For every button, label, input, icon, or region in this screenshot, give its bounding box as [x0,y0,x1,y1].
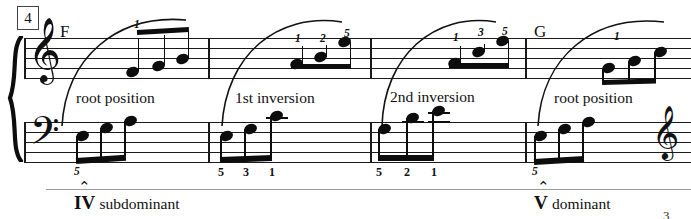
bass-fingering-2-2: 3 [243,165,249,180]
treble-fingering-2-3: 5 [344,27,350,39]
treble-stem-2-1 [302,46,304,64]
bass-beam-4 [534,156,584,165]
bass-fingering-2-1: 5 [218,165,224,180]
brace-icon [4,36,24,162]
treble-fingering-3-3: 5 [502,25,508,37]
treble-fingering-2-2: 2 [320,32,326,44]
bass-stem-4-1 [534,136,536,161]
bass-fingering-3-2: 2 [404,165,410,180]
inversion-label-1: root position [76,89,155,107]
bass-stem-1-2 [100,128,102,159]
system-left-edge-treble [24,38,26,79]
bass-stem-2-2 [244,129,246,159]
barline-1-bass [208,122,210,163]
bass-fingering-3-3: 1 [431,165,437,180]
barline-2-bass [370,122,372,163]
music-score-sheet: 4 𝄞 𝄢 𝄞 F [0,0,691,219]
barline-3-bass [525,122,527,163]
bass-beam-3 [378,155,434,161]
bass-fingering-2-3: 1 [269,165,275,180]
function-name-1: subdominant [99,195,179,212]
bottom-separator-rule [46,189,691,190]
partial-bottom-mark: 3 [663,208,670,219]
treble-stem-2-2 [326,45,328,57]
treble-stem-3-2 [484,44,486,52]
roman-numeral-1: IV [74,192,95,213]
bass-stem-3-2 [406,118,408,157]
treble-stem-1-1 [138,38,140,71]
bass-stem-4-2 [558,129,560,160]
slur-measure-3 [378,8,533,128]
bass-staff-line-1 [24,162,691,163]
bass-stem-3-1 [378,129,380,157]
harmonic-analysis-1: IV subdominant [74,192,179,214]
treble-stem-1-3 [188,32,190,58]
treble-fingering-3-1: 1 [453,31,459,43]
treble-stem-3-1 [460,46,462,63]
bass-stem-2-3 [270,116,272,159]
treble-beam-2 [291,64,351,69]
bass-fingering-4-1: 5 [532,165,538,177]
bass-stem-4-3 [582,122,584,159]
treble-fingering-4-1: 1 [614,30,620,42]
inversion-label-3: 2nd inversion [390,88,475,106]
system-left-edge-bass [24,122,26,163]
treble-fingering-2-1: 1 [295,32,301,44]
treble-stem-2-3 [350,42,352,64]
bass-stem-1-3 [124,121,126,156]
treble-beam-3 [449,63,509,68]
bass-fingering-3-1: 5 [376,165,382,180]
treble-fingering-1-1: 1 [134,18,140,30]
harmonic-analysis-4: V dominant [534,192,611,214]
bass-stem-2-1 [220,136,222,159]
inversion-label-2: 1st inversion [235,89,315,107]
inversion-label-4: root position [554,89,633,107]
treble-stem-1-2 [164,35,166,65]
roman-numeral-4: V [534,192,548,213]
function-name-4: dominant [552,195,611,212]
treble-fingering-3-2: 3 [478,26,484,38]
bass-fingering-1-1: 5 [74,165,80,177]
treble-stem-4-3 [654,52,656,82]
treble-stem-3-3 [508,41,510,63]
bass-stem-3-3 [432,111,434,157]
